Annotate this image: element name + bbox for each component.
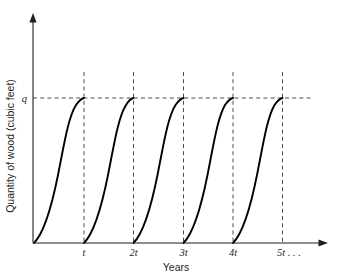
y-axis-arrowhead — [29, 13, 36, 23]
x-tick-label-t: t — [83, 247, 87, 258]
x-axis-arrowhead — [319, 239, 329, 246]
chart-canvas: q t 2t 3t 4t 5t . . . Years Quantity of … — [0, 0, 339, 280]
growth-curve-cycle-1 — [34, 98, 84, 243]
growth-curve-cycle-4 — [184, 98, 234, 243]
growth-curve-cycle-3 — [134, 98, 184, 243]
growth-curve-cycle-5 — [233, 98, 283, 243]
wood-growth-chart: q t 2t 3t 4t 5t . . . Years Quantity of … — [0, 0, 339, 280]
y-tick-label-q: q — [22, 93, 27, 104]
x-tick-label-3t: 3t — [178, 247, 188, 258]
x-tick-label-2t: 2t — [129, 247, 138, 258]
y-axis-title: Quantity of wood (cubic feet) — [4, 79, 16, 213]
growth-curve-cycle-2 — [84, 98, 134, 243]
x-tick-label-5t: 5t . . . — [277, 247, 301, 258]
x-axis-title: Years — [163, 261, 189, 273]
x-tick-label-4t: 4t — [229, 247, 238, 258]
